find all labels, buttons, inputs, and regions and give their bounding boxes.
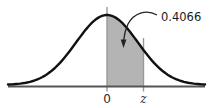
normal-curve-figure: 0.4066 0 z — [0, 0, 212, 108]
x-tick-label-zero: 0 — [103, 92, 111, 106]
x-tick-label-z: z — [139, 92, 147, 106]
distribution-chart: 0.4066 0 z — [0, 0, 212, 108]
area-annotation-label: 0.4066 — [161, 10, 201, 24]
